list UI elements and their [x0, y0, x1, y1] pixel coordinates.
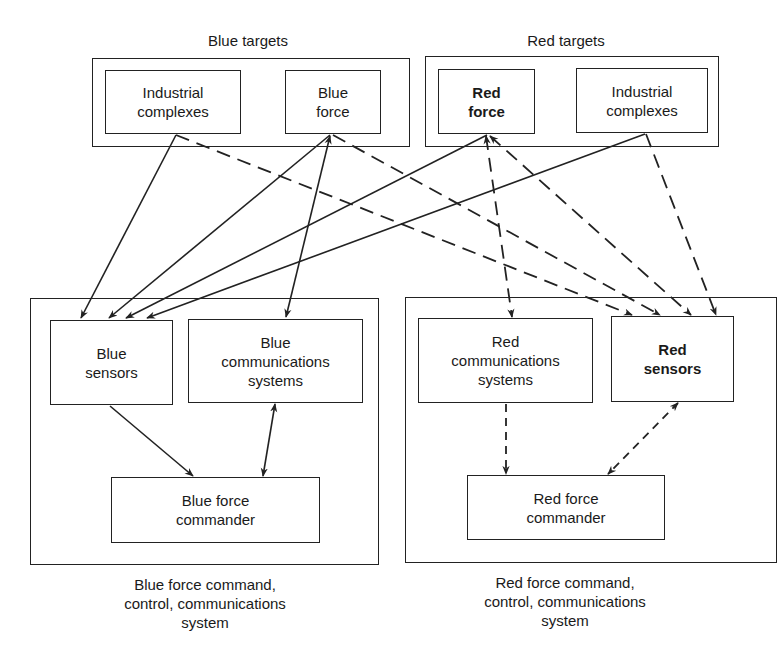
blue-sensors-label: Blue sensors — [85, 344, 138, 382]
blue-industrial-complexes-node: Industrial complexes — [105, 70, 241, 134]
blue-industrial-complexes-label: Industrial complexes — [137, 83, 209, 121]
red-communications-node: Red communications systems — [418, 318, 593, 403]
blue-c3-caption: Blue force command, control, communicati… — [60, 575, 350, 632]
arrow-blue-industrial-to-blue-sensors — [81, 135, 176, 318]
red-force-commander-label: Red force commander — [526, 489, 605, 527]
arrow-red-industrial-to-red-sensors — [646, 134, 716, 315]
blue-force-commander-node: Blue force commander — [111, 477, 320, 543]
arrow-blue-force-to-red-sensors — [333, 135, 660, 315]
blue-sensors-node: Blue sensors — [50, 320, 173, 405]
red-targets-title: Red targets — [466, 31, 666, 50]
red-force-label: Red force — [468, 83, 505, 121]
blue-force-commander-label: Blue force commander — [176, 491, 255, 529]
arrow-blue-force-to-blue-sensors — [109, 135, 330, 318]
red-sensors-node: Red sensors — [611, 316, 734, 402]
red-force-commander-node: Red force commander — [467, 475, 665, 540]
red-industrial-complexes-label: Industrial complexes — [606, 82, 678, 120]
blue-communications-node: Blue communications systems — [188, 319, 363, 403]
blue-force-label: Blue force — [316, 83, 349, 121]
blue-targets-title: Blue targets — [148, 31, 348, 50]
blue-communications-label: Blue communications systems — [221, 333, 329, 390]
arrow-blue-force-blue-comms — [286, 136, 330, 317]
blue-force-node: Blue force — [285, 70, 381, 134]
red-force-node: Red force — [438, 69, 535, 134]
arrow-red-force-red-comms — [486, 136, 512, 317]
red-communications-label: Red communications systems — [451, 332, 559, 389]
red-c3-caption: Red force command, control, communicatio… — [420, 573, 710, 630]
arrow-red-force-to-red-sensors — [490, 136, 691, 315]
red-sensors-label: Red sensors — [644, 340, 702, 378]
arrow-red-industrial-to-blue-sensors — [147, 134, 645, 318]
red-industrial-complexes-node: Industrial complexes — [576, 68, 708, 133]
arrow-blue-industrial-to-red-sensors — [176, 135, 632, 315]
arrow-red-force-to-blue-sensors — [126, 135, 487, 318]
